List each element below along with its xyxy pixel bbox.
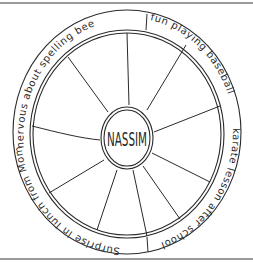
center-label: NASSIM [107, 128, 147, 150]
spoke [49, 160, 104, 193]
spoke [152, 153, 210, 182]
frame-bottom-border [0, 258, 253, 260]
spoke [68, 57, 108, 112]
spoke [154, 106, 220, 132]
spoke [133, 170, 147, 236]
ring-divider [147, 237, 148, 252]
ring-divider [146, 14, 147, 30]
ring-label-karate: karate lesson after school [159, 128, 242, 251]
ring-label-lunch: Surprise in lunch from Mom [12, 145, 120, 257]
spoke [32, 126, 100, 140]
ring-label-baseball: fun playing baseball [149, 11, 236, 95]
wheel-canvas: NASSIM nervous about spelling bee fun pl… [0, 0, 253, 262]
spoke [143, 166, 180, 219]
spoke [97, 170, 117, 230]
spoke [147, 45, 186, 110]
spoke [127, 33, 129, 105]
wheel-diagram: NASSIM nervous about spelling bee fun pl… [0, 0, 253, 262]
frame-top-border [0, 2, 253, 4]
